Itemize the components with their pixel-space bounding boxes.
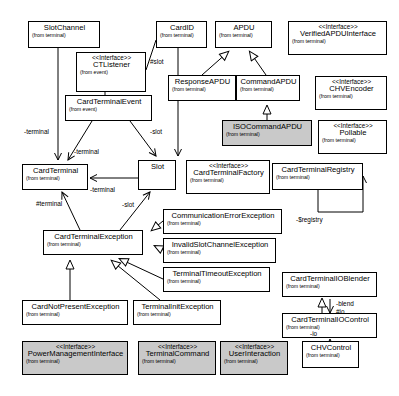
edge-label-io-role-2: -io <box>310 330 317 337</box>
package-label: (from terminal) <box>167 250 273 255</box>
package-label: (from terminal) <box>319 94 384 99</box>
class-node-terminalinit[interactable]: TerminalInitException(from terminal) <box>133 300 221 325</box>
class-name: UserInteraction <box>224 350 285 358</box>
class-name: CardNotPresentException <box>26 303 125 311</box>
edge-label-terminal-mid: -terminal <box>74 148 99 155</box>
package-label: (from terminal) <box>47 242 140 247</box>
class-name: CardTerminalFactory <box>190 169 267 177</box>
class-node-cardterminalregistry[interactable]: CardTerminalRegistry(from terminal) <box>272 163 363 190</box>
edge-label-slot-right: -slot <box>150 128 162 135</box>
class-node-powermgmt[interactable]: <<Interface>>PowerManagementInterface(fr… <box>22 341 128 375</box>
package-label: (from terminal) <box>292 39 384 44</box>
class-node-slotchannel[interactable]: SlotChannel(from terminal) <box>28 21 100 48</box>
class-node-commerror[interactable]: CommunicationErrorException(from termina… <box>163 209 282 234</box>
class-name: VerifiedAPDUInterface <box>292 30 384 38</box>
class-node-isocommandapdu[interactable]: ISOCommandAPDU(from terminal) <box>222 120 312 146</box>
package-label: (from terminal) <box>172 87 233 92</box>
class-node-terminalcommand[interactable]: <<Interface>>TerminalCommand(from termin… <box>138 341 216 375</box>
class-name: CardTerminalEvent <box>69 98 149 106</box>
class-name: CardID <box>160 24 204 32</box>
package-label: (from event) <box>80 70 143 75</box>
class-node-iocontrol[interactable]: CardTerminalIOControl(from terminal) <box>282 313 377 338</box>
class-name: CHVEncoder <box>319 85 384 93</box>
package-label: (from terminal) <box>26 359 125 364</box>
package-label: (from terminal) <box>276 175 360 180</box>
package-label: (from terminal) <box>226 132 309 137</box>
edge-label-terminal-attr: #terminal <box>36 200 62 207</box>
class-name: TerminalTimeoutException <box>167 270 267 278</box>
class-node-cardterminal[interactable]: CardTerminal(from terminal) <box>22 164 88 190</box>
package-label: (from terminal) <box>224 359 285 364</box>
package-label: (from terminal) <box>240 87 297 92</box>
class-name: ISOCommandAPDU <box>226 123 309 131</box>
edge-label-terminal-left: -terminal <box>24 128 49 135</box>
package-label: (from terminal) <box>137 312 218 317</box>
class-name: TerminalCommand <box>142 350 213 358</box>
package-label: (from terminal) <box>286 325 374 330</box>
class-name: CommandAPDU <box>240 78 297 86</box>
class-name: CHVControl <box>306 344 356 352</box>
class-node-pollable[interactable]: <<Interface>>Pollable(from terminal) <box>318 120 387 154</box>
class-name: PowerManagementInterface <box>26 350 125 358</box>
class-name: SlotChannel <box>32 24 97 32</box>
class-node-verifiedapdu[interactable]: <<Interface>>VerifiedAPDUInterface(from … <box>288 21 387 55</box>
edge-label-terminal-slot-assoc: -terminal <box>90 186 115 193</box>
package-label: (from terminal) <box>26 312 125 317</box>
package-label: (from terminal) <box>160 33 204 38</box>
class-node-responseapdu[interactable]: ResponseAPDU(from terminal) <box>168 75 236 101</box>
class-node-cardnotpresent[interactable]: CardNotPresentException(from terminal) <box>22 300 128 325</box>
package-label: (from terminal) <box>306 353 356 358</box>
package-label: (from event) <box>69 107 149 112</box>
package-label: (from terminal) <box>32 33 97 38</box>
package-label: (from terminal) <box>286 284 374 289</box>
class-name: CardTerminalRegistry <box>276 166 360 174</box>
class-name: TerminalInitException <box>137 303 218 311</box>
edge-label-registry-self: -$registry <box>296 216 323 223</box>
class-node-cardterminalexception[interactable]: CardTerminalException(from terminal) <box>43 230 143 255</box>
class-node-cardid[interactable]: CardID(from terminal) <box>156 21 207 48</box>
class-name: ResponseAPDU <box>172 78 233 86</box>
class-name: APDU <box>219 24 269 32</box>
class-node-chvcontrol[interactable]: CHVControl(from terminal) <box>302 341 359 368</box>
class-node-terminaltimeout[interactable]: TerminalTimeoutException(from terminal) <box>163 267 270 292</box>
class-node-chvencoder[interactable]: <<Interface>>CHVEncoder(from terminal) <box>315 76 387 110</box>
class-name: InvalidSlotChannelException <box>167 241 273 249</box>
package-label: (from terminal) <box>167 221 279 226</box>
class-node-invalidslot[interactable]: InvalidSlotChannelException(from termina… <box>163 238 276 263</box>
class-node-cardterminalevent[interactable]: CardTerminalEvent(from event) <box>65 95 152 121</box>
class-node-cardterminalfactory[interactable]: <<Interface>>CardTerminalFactory(from te… <box>186 160 270 194</box>
class-name: CardTerminalException <box>47 233 140 241</box>
class-node-ctlistener[interactable]: <<Interface>>CTListener(from event) <box>76 52 146 92</box>
class-name: CTListener <box>80 61 143 69</box>
package-label: (from terminal) <box>26 176 85 181</box>
class-name: Pollable <box>322 129 384 137</box>
class-node-apdu[interactable]: APDU(from terminal) <box>215 21 272 48</box>
uml-class-diagram: SlotChannel(from terminal)CardID(from te… <box>0 0 399 396</box>
class-name: CommunicationErrorException <box>167 212 279 220</box>
class-name: CardTerminalIOControl <box>286 316 374 324</box>
class-name: CardTerminalIOBlender <box>286 275 374 283</box>
package-label: (from terminal) <box>190 178 267 183</box>
package-label: (from terminal) <box>219 33 269 38</box>
edge-label-slot-attr: -slot <box>122 201 134 208</box>
class-node-commandapdu[interactable]: CommandAPDU(from terminal) <box>236 75 300 101</box>
package-label: (from terminal) <box>167 279 267 284</box>
package-label: (from terminal) <box>142 359 213 364</box>
package-label: (from terminal) <box>322 138 384 143</box>
class-node-ioblender[interactable]: CardTerminalIOBlender(from terminal) <box>282 272 377 297</box>
class-node-userinteraction[interactable]: <<Interface>>UserInteraction(from termin… <box>220 341 288 375</box>
class-name: Slot <box>142 163 173 171</box>
edge-label-slot-role-ctlistener: #slot <box>150 58 164 65</box>
class-name: CardTerminal <box>26 167 85 175</box>
edge-label-blend-role: -blend <box>336 300 354 307</box>
edge-label-io-role: #io <box>336 308 345 315</box>
class-node-slot[interactable]: Slot <box>138 160 176 190</box>
